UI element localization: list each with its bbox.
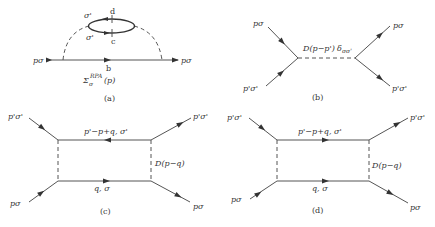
panel-a-bubble-top-arrow-icon [102, 17, 108, 21]
panel-a-bubble-bottom-label: c [111, 37, 116, 46]
panel-b-lower-left-label: p'σ' [243, 84, 258, 93]
panel-b-upper-right-label: pσ [393, 21, 404, 30]
panel-d-lower-right-label: pσ [410, 203, 421, 212]
panel-d-top-arrow-icon [322, 138, 329, 143]
panel-c-upper-right-leg [151, 118, 191, 140]
panel-c-lower-left-label: pσ [10, 199, 21, 208]
panel-c-lower-right-leg [151, 181, 190, 202]
panel-c-lower-right-label: pσ [193, 202, 204, 211]
self-energy-superscript: RPA [89, 72, 103, 79]
interaction-function: D(p−p') [302, 44, 335, 53]
panel-c-interaction-label: D(p−q) [154, 159, 185, 168]
panel-c-caption: (c) [100, 207, 111, 216]
panel-d-upper-right-arrow-icon [393, 120, 402, 128]
panel-a-bubble-top-label: d [110, 7, 115, 16]
panel-b-upper-right-leg [355, 26, 390, 58]
panel-c-upper-right-label: p'σ' [193, 112, 208, 121]
panel-b-upper-left-label: pσ [253, 19, 264, 28]
self-energy-subscript: σ [89, 80, 94, 87]
panel-a-left-dashed-arc [63, 26, 89, 60]
panel-a-left-arrow-icon [46, 58, 52, 63]
self-energy-symbol: Σ [82, 76, 89, 85]
panel-c-lower-right-arrow-icon [174, 192, 183, 200]
panel-d-exchange-diagram: p'σ' pσ p'σ' pσ p'−p+q, σ' q, σ D(p−q) (… [227, 113, 425, 215]
panel-d-bottom-arrow-icon [322, 179, 329, 184]
panel-c-upper-left-label: p'σ' [8, 112, 23, 121]
panel-c-bottom-line-label: q, σ [94, 184, 110, 193]
panel-b-lower-right-leg [355, 58, 390, 86]
self-energy-argument: (p) [104, 76, 115, 85]
panel-a-self-energy-label: Σ σ RPA (p) [82, 72, 115, 87]
panel-c-exchange-diagram: p'σ' pσ p'σ' pσ p'−p+q, σ' q, σ D(p−q) (… [8, 112, 208, 216]
panel-c-top-arrow-icon [104, 138, 111, 143]
panel-a-middle-arrow-icon [104, 58, 111, 63]
panel-a-right-dashed-arc [134, 26, 162, 60]
panel-a-bubble-top-spin-label: σ' [84, 11, 92, 20]
panel-b-caption: (b) [312, 93, 323, 102]
panel-a-bubble-bottom-arrow-icon [104, 31, 110, 35]
panel-d-lower-left-label: pσ [231, 195, 242, 204]
panel-b-lower-right-label: p'σ' [392, 84, 407, 93]
panel-b-direct-interaction-diagram: pσ p'σ' pσ p'σ' D(p−p') δ σσ' (b) [243, 19, 407, 102]
panel-a-left-leg-label: pσ [33, 56, 44, 65]
panel-c-top-line-label: p'−p+q, σ' [84, 127, 128, 136]
panel-d-upper-right-leg [369, 118, 408, 140]
panel-d-lower-left-leg [250, 181, 277, 199]
panel-a-caption: (a) [104, 94, 115, 103]
panel-b-interaction-label: D(p−p') δ σσ' [302, 44, 352, 54]
panel-d-interaction-label: D(p−q) [371, 161, 402, 170]
kronecker-delta-subscript: σσ' [342, 47, 352, 54]
panel-a-self-energy-diagram: pσ pσ σ' σ' d c b Σ σ RPA (p) (a) [33, 7, 192, 103]
panel-a-bubble-bottom-spin-label: σ' [86, 33, 94, 42]
panel-a-propagator-label: b [106, 64, 111, 73]
panel-a-right-arrow-icon [172, 58, 179, 63]
panel-d-upper-right-label: p'σ' [410, 113, 425, 122]
panel-a-right-leg-label: pσ [181, 56, 192, 65]
panel-c-upper-right-arrow-icon [176, 120, 185, 128]
panel-d-lower-right-arrow-icon [386, 189, 395, 197]
panel-d-upper-left-label: p'σ' [227, 113, 242, 122]
panel-c-bottom-arrow-icon [103, 179, 110, 184]
panel-d-bottom-line-label: q, σ [312, 184, 328, 193]
panel-d-caption: (d) [312, 206, 323, 215]
panel-d-top-line-label: p'−p+q, σ' [298, 127, 342, 136]
feynman-diagrams-figure: pσ pσ σ' σ' d c b Σ σ RPA (p) (a) pσ p'σ… [0, 0, 435, 227]
